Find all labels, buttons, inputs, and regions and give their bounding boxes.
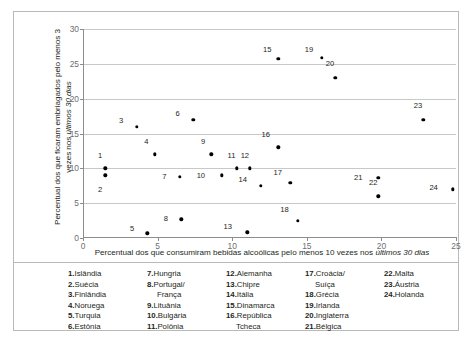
legend-item-number: 13. bbox=[226, 280, 237, 289]
legend-item-number: 23. bbox=[384, 280, 395, 289]
legend-item-label-continued: França bbox=[147, 290, 226, 301]
legend-item-11: 11.Polônia bbox=[147, 322, 226, 333]
data-point-label-20: 20 bbox=[326, 59, 334, 68]
legend-item-19: 19.Irlanda bbox=[305, 301, 384, 312]
legend-item-label: Holanda bbox=[395, 290, 424, 299]
y-tick-label-10: 10 bbox=[70, 163, 79, 173]
legend-item-1: 1.Islândia bbox=[68, 269, 147, 280]
figure-panel: Percentual dos que ficaram embriagados p… bbox=[13, 11, 459, 331]
data-point-label-6: 6 bbox=[176, 109, 180, 118]
legend-item-15: 15.Dinamarca bbox=[226, 301, 305, 312]
legend-item-8: 8.Portugal/ bbox=[147, 280, 226, 291]
data-point-label-21: 21 bbox=[354, 173, 362, 182]
legend-item-13: 13.Chipre bbox=[226, 280, 305, 291]
y-tick-label-15: 15 bbox=[70, 129, 79, 139]
legend-item-label: Estônia bbox=[75, 322, 101, 331]
legend-item-12: 12.Alemanha bbox=[226, 269, 305, 280]
y-tick-label-25: 25 bbox=[70, 59, 79, 69]
legend-item-label: Lituânia bbox=[154, 301, 181, 310]
legend-item-10: 10.Bulgária bbox=[147, 311, 226, 322]
legend-item-21: 21.Bélgica bbox=[305, 322, 384, 333]
legend-item-number: 18. bbox=[305, 290, 316, 299]
data-point-label-22: 22 bbox=[369, 177, 377, 186]
legend-item-number: 16. bbox=[226, 311, 237, 320]
y-tick-label-30: 30 bbox=[70, 24, 79, 34]
gridline-y-10 bbox=[83, 168, 456, 169]
data-point-label-16: 16 bbox=[262, 130, 270, 139]
legend-item-18: 18.Grécia bbox=[305, 290, 384, 301]
gridline-y-5 bbox=[83, 203, 456, 204]
data-point-label-3: 3 bbox=[119, 116, 123, 125]
legend-item-number: 12. bbox=[226, 269, 237, 278]
legend-item-7: 7.Hungria bbox=[147, 269, 226, 280]
legend-item-label: Noruega bbox=[75, 301, 105, 310]
legend-item-number: 21. bbox=[305, 322, 316, 331]
legend-item-number: 10. bbox=[147, 311, 158, 320]
legend-item-label: Portugal/ bbox=[154, 280, 185, 289]
legend-item-22: 22.Malta bbox=[384, 269, 463, 280]
legend-item-5: 5.Turquia bbox=[68, 311, 147, 322]
legend-item-label: Finlândia bbox=[75, 290, 107, 299]
y-axis-title-container: Percentual dos que ficaram embriagados p… bbox=[14, 12, 60, 240]
y-tick-label-5: 5 bbox=[74, 198, 79, 208]
legend-item-label: República bbox=[237, 311, 272, 320]
data-point-label-24: 24 bbox=[429, 183, 437, 192]
data-point-label-5: 5 bbox=[130, 223, 134, 232]
gridline-y-30 bbox=[83, 29, 456, 30]
legend-item-number: 15. bbox=[226, 301, 237, 310]
data-point-label-7: 7 bbox=[162, 171, 166, 180]
y-tick-label-0: 0 bbox=[74, 233, 79, 243]
data-point-label-14: 14 bbox=[238, 175, 246, 184]
scatter-plot-area: 0510152025300510152025123456789101112131… bbox=[83, 29, 456, 238]
legend-item-label: Inglaterra bbox=[316, 311, 349, 320]
data-point-label-11: 11 bbox=[228, 151, 236, 160]
data-point-label-8: 8 bbox=[164, 214, 168, 223]
x-axis-title-plain: Percentual dos que consumiram bebidas al… bbox=[95, 248, 376, 257]
legend-item-number: 20. bbox=[305, 311, 316, 320]
data-point-label-23: 23 bbox=[414, 100, 422, 109]
legend-item-label: Dinamarca bbox=[237, 301, 275, 310]
legend-column-1: 1.Islândia2.Suécia3.Finlândia4.Noruega5.… bbox=[68, 269, 147, 333]
data-point-label-17: 17 bbox=[273, 167, 281, 176]
legend-item-label: Alemanha bbox=[237, 269, 272, 278]
legend-item-23: 23.Áustria bbox=[384, 280, 463, 291]
y-axis-line bbox=[83, 29, 84, 238]
legend-item-label: Bélgica bbox=[316, 322, 342, 331]
data-point-label-9: 9 bbox=[201, 137, 205, 146]
legend-item-20: 20.Inglaterra bbox=[305, 311, 384, 322]
x-axis-title-italic: últimos 30 dias bbox=[375, 248, 429, 257]
legend-item-14: 14.Itália bbox=[226, 290, 305, 301]
data-point-label-19: 19 bbox=[305, 45, 313, 54]
legend-item-17: 17.Croácia/ bbox=[305, 269, 384, 280]
legend-item-label: Turquia bbox=[75, 311, 101, 320]
data-point-label-18: 18 bbox=[280, 204, 288, 213]
legend-item-3: 3.Finlândia bbox=[68, 290, 147, 301]
legend-item-number: 19. bbox=[305, 301, 316, 310]
data-point-label-1: 1 bbox=[98, 151, 102, 160]
legend-column-2: 7.Hungria8.Portugal/França9.Lituânia10.B… bbox=[147, 269, 226, 333]
legend-column-3: 12.Alemanha13.Chipre14.Itália15.Dinamarc… bbox=[226, 269, 305, 333]
data-point-label-2: 2 bbox=[98, 184, 102, 193]
legend-item-label-continued: Tcheca bbox=[226, 322, 305, 333]
y-axis-title: Percentual dos que ficaram embriagados p… bbox=[52, 20, 75, 234]
x-axis-line bbox=[83, 237, 456, 238]
legend-item-label: Grécia bbox=[316, 290, 339, 299]
legend-item-label: Áustria bbox=[395, 280, 419, 289]
legend-item-label: Bulgária bbox=[158, 311, 187, 320]
legend-item-label: Polônia bbox=[157, 322, 183, 331]
legend-item-label: Hungria bbox=[154, 269, 181, 278]
data-point-label-4: 4 bbox=[144, 137, 148, 146]
legend-item-9: 9.Lituânia bbox=[147, 301, 226, 312]
legend-item-4: 4.Noruega bbox=[68, 301, 147, 312]
data-point-label-12: 12 bbox=[241, 151, 249, 160]
legend: 1.Islândia2.Suécia3.Finlândia4.Noruega5.… bbox=[14, 262, 458, 330]
gridline-y-20 bbox=[83, 99, 456, 100]
legend-item-label: Itália bbox=[237, 290, 253, 299]
legend-item-number: 24. bbox=[384, 290, 395, 299]
legend-item-label: Croácia/ bbox=[316, 269, 345, 278]
legend-columns: 1.Islândia2.Suécia3.Finlândia4.Noruega5.… bbox=[68, 269, 463, 333]
legend-item-24: 24.Holanda bbox=[384, 290, 463, 301]
x-axis-title: Percentual dos que consumiram bebidas al… bbox=[66, 248, 458, 258]
y-tick-label-20: 20 bbox=[70, 94, 79, 104]
legend-item-label-continued: Suíça bbox=[305, 280, 384, 291]
